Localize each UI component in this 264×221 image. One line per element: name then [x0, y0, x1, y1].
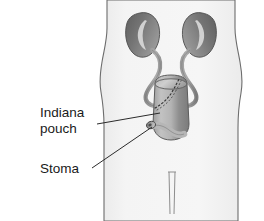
label-indiana-pouch-line2: pouch	[40, 121, 77, 136]
pouch-top-cap	[155, 79, 187, 89]
label-stoma: Stoma	[40, 161, 80, 176]
medical-illustration-figure: Indiana pouch Stoma	[0, 0, 264, 221]
illustration-canvas: Indiana pouch Stoma	[0, 0, 264, 221]
label-indiana-pouch-line1: Indiana	[40, 105, 85, 120]
